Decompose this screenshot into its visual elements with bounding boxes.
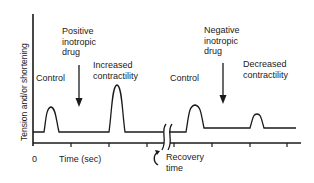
control-2-label: Control [170, 73, 199, 84]
y-axis-label: Tension and/or shortening [19, 43, 29, 141]
increased-contractility-label: Increased contractility [93, 60, 138, 81]
axis-break-left [162, 124, 166, 150]
diagram-canvas [0, 0, 314, 183]
negative-drug-line1: Negative [204, 25, 240, 36]
increased-line1: Increased [93, 60, 138, 71]
negative-drug-arrowhead [220, 95, 227, 104]
trace-left [33, 85, 163, 132]
axis-break-right [168, 124, 172, 150]
decreased-contractility-label: Decreased contractility [243, 59, 288, 80]
positive-drug-line3: drug [62, 47, 96, 58]
trace-right [169, 105, 296, 132]
negative-drug-line2: inotropic [204, 36, 240, 47]
positive-drug-label: Positive inotropic drug [62, 26, 96, 58]
negative-drug-line3: drug [204, 46, 240, 57]
increased-line2: contractility [93, 71, 138, 82]
decreased-line2: contractility [243, 70, 288, 81]
x-origin-label: 0 [32, 154, 37, 165]
recovery-line2: time [166, 163, 204, 174]
recovery-line1: Recovery [166, 152, 204, 163]
x-axis-label: Time (sec) [59, 154, 101, 165]
control-1-label: Control [36, 73, 65, 84]
recovery-time-label: Recovery time [166, 152, 204, 173]
decreased-line1: Decreased [243, 59, 288, 70]
positive-drug-arrowhead [76, 98, 83, 107]
positive-drug-line2: inotropic [62, 37, 96, 48]
positive-drug-line1: Positive [62, 26, 96, 37]
negative-drug-label: Negative inotropic drug [204, 25, 240, 57]
